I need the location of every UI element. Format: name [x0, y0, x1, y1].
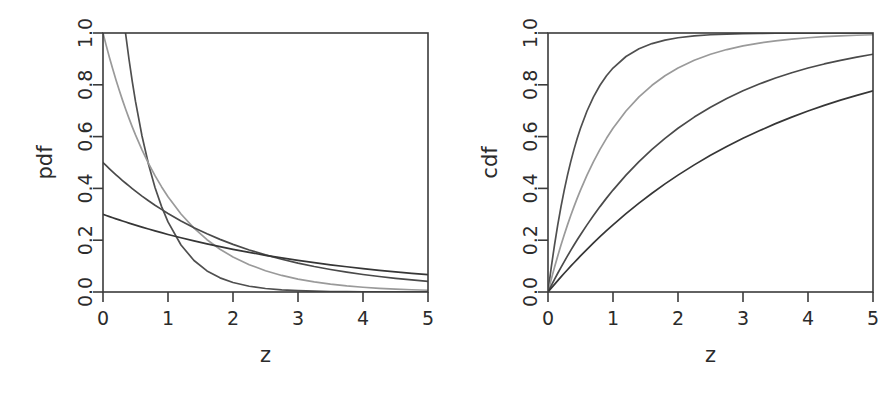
cdf-ytick-label-5: 1.0 — [519, 18, 541, 48]
curve-pdf-3 — [103, 214, 428, 274]
pdf-ytick-label-2: 0.4 — [74, 173, 96, 203]
pdf-xtick-label-1: 1 — [162, 307, 174, 329]
cdf-xtick-label-4: 4 — [802, 307, 814, 329]
chart-panel-pdf: 0123450.00.20.40.60.81.0zpdf — [0, 0, 445, 395]
cdf-ytick-label-0: 0.0 — [519, 277, 541, 307]
cdf-curves — [548, 33, 873, 292]
curve-cdf-3 — [548, 91, 873, 292]
cdf-xtick-label-5: 5 — [867, 307, 879, 329]
pdf-ytick-label-5: 1.0 — [74, 18, 96, 48]
figure-canvas: 0123450.00.20.40.60.81.0zpdf 0123450.00.… — [0, 0, 890, 395]
pdf-xtick-label-3: 3 — [292, 307, 304, 329]
pdf-xtick-label-4: 4 — [357, 307, 369, 329]
cdf-xtick-label-3: 3 — [737, 307, 749, 329]
pdf-plot-svg: 0123450.00.20.40.60.81.0zpdf — [0, 0, 445, 395]
pdf-ytick-label-0: 0.0 — [74, 277, 96, 307]
pdf-xaxis-title: z — [260, 343, 271, 367]
cdf-xaxis-title: z — [705, 343, 716, 367]
pdf-ytick-label-4: 0.8 — [74, 70, 96, 100]
cdf-xtick-label-1: 1 — [607, 307, 619, 329]
pdf-plot-frame — [103, 33, 428, 292]
pdf-plot-group: 0123450.00.20.40.60.81.0zpdf — [33, 0, 434, 367]
pdf-xtick-label-5: 5 — [422, 307, 434, 329]
cdf-plot-group: 0123450.00.20.40.60.81.0zcdf — [478, 18, 879, 367]
cdf-ytick-label-1: 0.2 — [519, 225, 541, 255]
pdf-curves — [103, 0, 428, 292]
curve-cdf-1 — [548, 35, 873, 292]
pdf-ytick-label-3: 0.6 — [74, 121, 96, 151]
cdf-ytick-label-3: 0.6 — [519, 121, 541, 151]
curve-pdf-1 — [103, 33, 428, 290]
cdf-xtick-label-2: 2 — [672, 307, 684, 329]
chart-panel-cdf: 0123450.00.20.40.60.81.0zcdf — [445, 0, 890, 395]
cdf-plot-frame — [548, 33, 873, 292]
curve-pdf-0 — [103, 0, 428, 292]
pdf-xtick-label-2: 2 — [227, 307, 239, 329]
curve-pdf-2 — [103, 163, 428, 282]
cdf-ytick-label-2: 0.4 — [519, 173, 541, 203]
pdf-xtick-label-0: 0 — [97, 307, 109, 329]
pdf-yaxis-title: pdf — [33, 145, 57, 180]
cdf-xtick-label-0: 0 — [542, 307, 554, 329]
cdf-ytick-label-4: 0.8 — [519, 70, 541, 100]
cdf-yaxis-title: cdf — [478, 146, 502, 179]
curve-cdf-0 — [548, 33, 873, 292]
cdf-plot-svg: 0123450.00.20.40.60.81.0zcdf — [445, 0, 890, 395]
pdf-ytick-label-1: 0.2 — [74, 225, 96, 255]
